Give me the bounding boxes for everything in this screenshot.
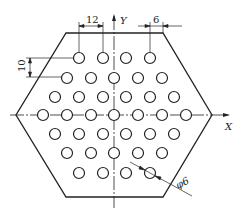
x-axis-arrow-icon bbox=[223, 113, 230, 117]
hole-circle bbox=[74, 92, 85, 103]
hole-circle bbox=[181, 110, 192, 121]
hole-circle bbox=[133, 110, 144, 121]
hole-circle bbox=[145, 53, 156, 64]
hole-circle bbox=[98, 92, 109, 103]
y-axis-label: Y bbox=[120, 15, 128, 26]
dimension-horizontal-pitch-label: 12 bbox=[86, 14, 99, 25]
hole-circle bbox=[157, 73, 168, 84]
hole-circle bbox=[74, 53, 85, 64]
hole-circle bbox=[133, 73, 144, 84]
x-axis-label: X bbox=[224, 121, 233, 132]
hole-circle bbox=[157, 148, 168, 159]
hole-circle bbox=[109, 110, 120, 121]
dimension-hole-diameter-label: φ6 bbox=[174, 174, 192, 190]
y-axis-arrow-icon bbox=[112, 14, 116, 21]
hole-circle bbox=[121, 92, 132, 103]
hole-pattern bbox=[38, 53, 192, 179]
dimension-horizontal-pitch bbox=[79, 22, 103, 52]
hole-circle bbox=[62, 148, 73, 159]
hex-plate-drawing: Y X 12 6 10 φ6 bbox=[0, 0, 244, 219]
hole-circle bbox=[50, 92, 61, 103]
hole-circle bbox=[109, 73, 120, 84]
dimension-edge-margin-label: 6 bbox=[153, 14, 159, 25]
hole-circle bbox=[50, 129, 61, 140]
hole-circle bbox=[145, 129, 156, 140]
hole-circle bbox=[74, 129, 85, 140]
dimension-edge-margin bbox=[138, 22, 182, 52]
hole-circle bbox=[86, 148, 97, 159]
hole-circle bbox=[86, 73, 97, 84]
hole-circle bbox=[74, 168, 85, 179]
hole-circle bbox=[98, 53, 109, 64]
hole-circle bbox=[169, 129, 180, 140]
hole-circle bbox=[121, 129, 132, 140]
hole-circle bbox=[62, 110, 73, 121]
hole-circle bbox=[62, 73, 73, 84]
hole-circle bbox=[145, 92, 156, 103]
hole-circle bbox=[98, 168, 109, 179]
dimension-vertical-pitch-label: 10 bbox=[16, 59, 27, 72]
hole-circle bbox=[121, 53, 132, 64]
hole-circle bbox=[38, 110, 49, 121]
hole-circle bbox=[109, 148, 120, 159]
hole-circle bbox=[157, 110, 168, 121]
hole-circle bbox=[133, 148, 144, 159]
hole-circle bbox=[86, 110, 97, 121]
hole-circle bbox=[121, 168, 132, 179]
hole-circle bbox=[98, 129, 109, 140]
hole-circle bbox=[169, 92, 180, 103]
